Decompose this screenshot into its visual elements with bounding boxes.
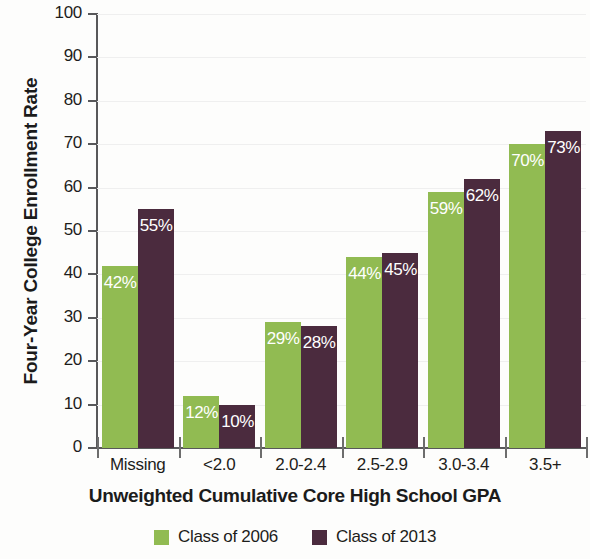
y-tick-label: 50: [36, 220, 82, 240]
x-category-label: 3.0-3.4: [423, 455, 505, 475]
legend-swatch: [154, 530, 169, 545]
bar-value-label: 29%: [267, 330, 300, 347]
bar-value-label: 55%: [140, 217, 173, 234]
legend-swatch: [312, 530, 327, 545]
legend-entry: Class of 2006: [154, 527, 278, 547]
bar-value-label: 73%: [547, 139, 580, 156]
legend-label: Class of 2006: [178, 527, 278, 547]
x-category-label: 2.0-2.4: [260, 455, 342, 475]
legend-entry: Class of 2013: [312, 527, 436, 547]
bar-value-label: 70%: [511, 152, 544, 169]
bar: [545, 131, 581, 448]
bar: [102, 266, 138, 448]
bar-value-label: 62%: [466, 187, 499, 204]
y-tick-label: 60: [36, 177, 82, 197]
gridline: [97, 101, 586, 102]
bar: [464, 179, 500, 448]
y-tick-label: 80: [36, 90, 82, 110]
bar: [138, 209, 174, 448]
bar: [382, 253, 418, 448]
bar-value-label: 59%: [430, 200, 463, 217]
bar-value-label: 12%: [185, 404, 218, 421]
bar: [346, 257, 382, 448]
bar-value-label: 28%: [303, 334, 336, 351]
bar-value-label: 10%: [221, 413, 254, 430]
y-tick-label: 40: [36, 263, 82, 283]
bar-value-label: 45%: [384, 261, 417, 278]
x-category-label: Missing: [97, 455, 179, 475]
x-category-label: <2.0: [179, 455, 261, 475]
bar: [428, 192, 464, 448]
y-tick-label: 10: [36, 394, 82, 414]
gridline: [97, 14, 586, 15]
y-tick-label: 0: [36, 437, 82, 457]
bar-chart: Four-Year College Enrollment Rate 010203…: [0, 0, 590, 559]
bar-value-label: 44%: [348, 265, 381, 282]
y-tick-label: 30: [36, 307, 82, 327]
x-category-label: 3.5+: [505, 455, 587, 475]
chart-legend: Class of 2006Class of 2013: [0, 527, 590, 547]
y-tick-label: 70: [36, 133, 82, 153]
y-tick-label: 20: [36, 350, 82, 370]
x-tick-mark: [586, 437, 588, 458]
x-axis-title: Unweighted Cumulative Core High School G…: [0, 485, 590, 507]
bar: [509, 144, 545, 448]
gridline: [97, 57, 586, 58]
y-tick-label: 90: [36, 46, 82, 66]
x-category-label: 2.5-2.9: [342, 455, 424, 475]
plot-area: 42%55%12%10%29%28%44%45%59%62%70%73%: [97, 14, 586, 448]
bar-value-label: 42%: [104, 274, 137, 291]
y-tick-label: 100: [36, 3, 82, 23]
legend-label: Class of 2013: [336, 527, 436, 547]
